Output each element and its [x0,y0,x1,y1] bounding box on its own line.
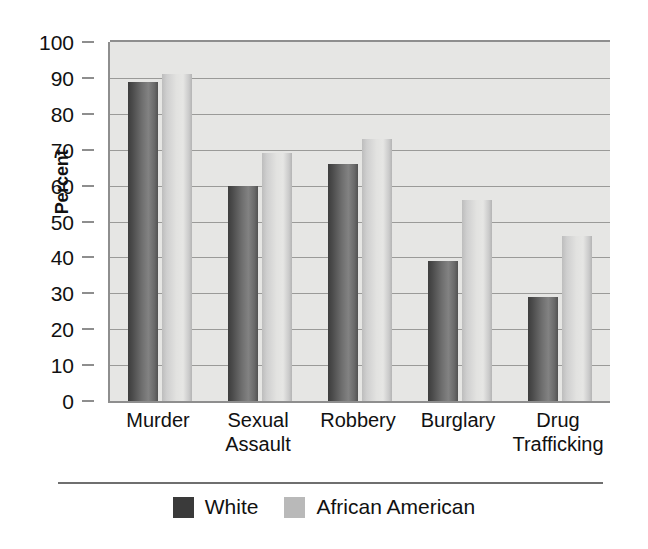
y-axis-tick-mark [82,221,94,223]
y-axis-tick-label: 80 [14,103,74,124]
legend-swatch-icon [173,497,194,518]
bar [362,139,392,401]
x-axis-category-label: Burglary [408,408,508,432]
y-axis-tick-label: 60 [14,175,74,196]
bar [162,74,192,401]
chart-legend: WhiteAfrican American [0,495,648,519]
y-axis-ticks: 1009080706050403020100 [0,0,108,549]
y-axis-tick-label: 90 [14,67,74,88]
y-axis-tick-label: 30 [14,283,74,304]
x-axis-category-label-line: Robbery [308,408,408,432]
x-axis-category-label: Robbery [308,408,408,432]
bar-group [310,42,410,401]
legend-swatch-icon [284,497,305,518]
bars-layer [110,42,610,401]
bar-group [410,42,510,401]
plot-area [108,42,610,401]
bar [562,236,592,401]
y-axis-tick-label: 20 [14,319,74,340]
legend-item: African American [284,495,475,519]
y-axis-tick-label: 50 [14,211,74,232]
y-axis-tick-label: 40 [14,247,74,268]
x-axis-category-label: Murder [108,408,208,432]
y-axis-tick-label: 70 [14,139,74,160]
bar-group [110,42,210,401]
legend-label: African American [316,495,475,519]
y-axis-tick-label: 100 [14,32,74,53]
legend-divider [58,482,603,484]
y-axis-tick-mark [82,113,94,115]
y-axis-tick-mark [82,328,94,330]
y-axis-tick-mark [82,41,94,43]
legend-item: White [173,495,259,519]
bar [462,200,492,401]
bar [228,186,258,401]
y-axis-tick-mark [82,77,94,79]
x-axis-category-labels: MurderSexualAssaultRobberyBurglaryDrugTr… [108,408,608,470]
bar [262,153,292,401]
bar [528,297,558,401]
bar-group [210,42,310,401]
y-axis-tick-mark [82,400,94,402]
x-axis-category-label-line: Assault [208,432,308,456]
bar-group [510,42,610,401]
x-axis-category-label: SexualAssault [208,408,308,456]
bar [428,261,458,401]
x-axis-category-label-line: Drug [508,408,608,432]
y-axis-tick-label: 10 [14,355,74,376]
y-axis-tick-mark [82,149,94,151]
y-axis-tick-mark [82,292,94,294]
bar-chart-figure: Percent 1009080706050403020100 MurderSex… [0,0,648,549]
x-axis-category-label-line: Murder [108,408,208,432]
legend-label: White [205,495,259,519]
x-axis-category-label: DrugTrafficking [508,408,608,456]
x-axis-category-label-line: Trafficking [508,432,608,456]
bar [128,82,158,402]
y-axis-tick-mark [82,185,94,187]
bar [328,164,358,401]
y-axis-tick-label: 0 [14,391,74,412]
x-axis-category-label-line: Sexual [208,408,308,432]
y-axis-tick-mark [82,364,94,366]
y-axis-tick-mark [82,256,94,258]
x-axis-category-label-line: Burglary [408,408,508,432]
